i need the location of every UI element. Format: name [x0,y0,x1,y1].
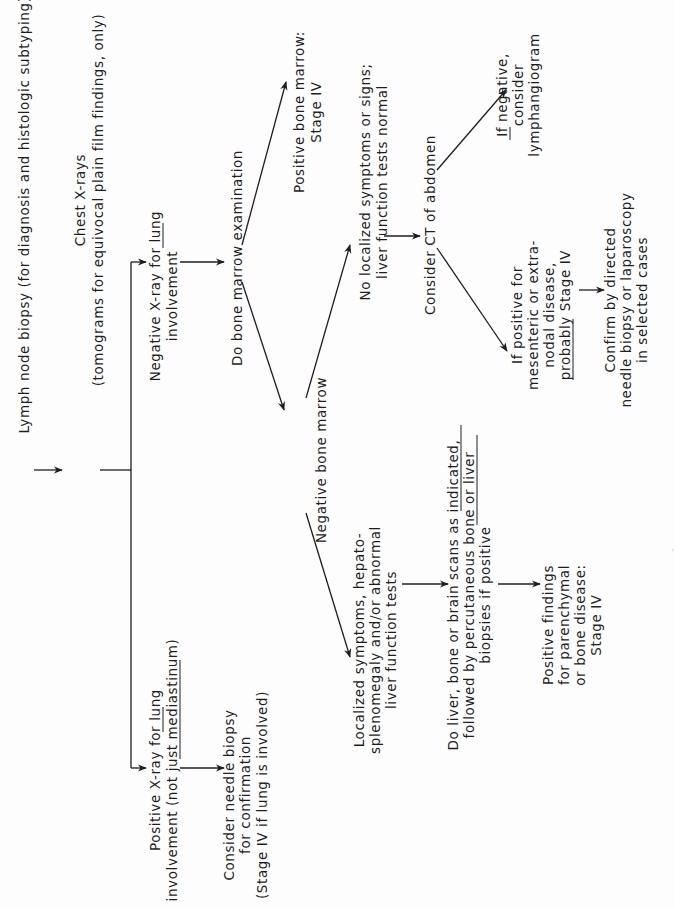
node-line: Positive X-ray for lung [147,689,163,851]
node-line: followed by percutaneous bone or liver [461,452,477,739]
node-line: consider [510,64,526,126]
node-bone-marrow-exam: Do bone marrow examination [229,150,245,366]
arrow-to-no-localized-symptoms [306,245,350,398]
node-negative-xray: Negative X-ray for lung involvement [147,211,180,382]
node-line: in selected cases [634,237,650,363]
node-consider-needle-biopsy: Consider needle biopsy for confirmation … [221,691,270,899]
scan-speck [672,549,674,551]
scanned-page: Lymph node biopsy (for diagnosis and his… [0,0,675,908]
node-line: liver function tests [383,571,399,709]
node-line: lymphangiogram [526,33,542,156]
node-line: involvement (not just mediastinum) [164,639,180,902]
node-line: Negative bone marrow [313,377,329,543]
node-line: Positive bone marrow: [291,31,307,193]
staging-flowchart: Lymph node biopsy (for diagnosis and his… [0,0,675,908]
node-line: (tomograms for equivocal plain film find… [90,14,106,387]
node-positive-findings: Positive findings for parenchymal or bon… [540,564,604,686]
node-line: for parenchymal [556,565,572,685]
node-line: Negative X-ray for lung [147,211,163,382]
arrow-to-positive-bone-marrow [242,82,286,245]
node-line: Chest X-rays [72,154,88,246]
node-line: If positive for [509,266,525,364]
node-line: or bone disease: [572,564,588,686]
node-line: Consider CT of abdomen [422,135,438,315]
node-line: nodal disease, [541,262,557,368]
node-if-positive: If positive for mesenteric or extra- nod… [509,240,573,390]
node-line: mesenteric or extra- [525,240,541,390]
node-line: Do liver, bone or brain scans as indicat… [445,440,461,751]
node-localized-symptoms: Localized symptoms, hepato- splenomegaly… [351,526,399,754]
node-chest-xrays: Chest X-rays (tomograms for equivocal pl… [72,14,106,387]
node-consider-ct: Consider CT of abdomen [422,135,438,315]
node-line: splenomegaly and/or abnormal [367,526,383,754]
node-line: Confirm by directed [602,227,618,372]
node-line: probably Stage IV [557,250,573,380]
node-line: (Stage IV if lung is involved) [254,691,270,899]
node-line: Lymph node biopsy (for diagnosis and his… [16,0,32,434]
node-line: Do bone marrow examination [229,150,245,366]
node-do-liver-scans: Do liver, bone or brain scans as indicat… [445,425,493,750]
arrow-to-negative-bone-marrow [242,282,284,410]
node-negative-bone-marrow: Negative bone marrow [313,377,329,543]
node-line: Consider needle biopsy [221,709,237,880]
node-line: Localized symptoms, hepato- [351,533,367,748]
node-line: biopsies if positive [477,526,493,663]
node-line: Stage IV [308,81,324,142]
arrow-to-if-positive [437,248,507,351]
node-line: involvement [164,251,180,342]
node-lymph-node-biopsy: Lymph node biopsy (for diagnosis and his… [16,0,32,434]
node-line: for confirmation [237,736,253,854]
node-positive-bone-marrow: Positive bone marrow: Stage IV [291,31,324,193]
node-line: needle biopsy or laparoscopy [618,192,634,407]
node-line: Stage IV [588,594,604,655]
node-line: liver function tests normal [374,85,390,279]
node-line: Positive findings [540,565,556,685]
node-positive-xray: Positive X-ray for lung involvement (not… [147,639,180,902]
node-line: No localized symptoms or signs; [357,63,373,300]
node-no-localized-symptoms: No localized symptoms or signs; liver fu… [357,63,390,300]
node-confirm-by: Confirm by directed needle biopsy or lap… [602,192,650,407]
